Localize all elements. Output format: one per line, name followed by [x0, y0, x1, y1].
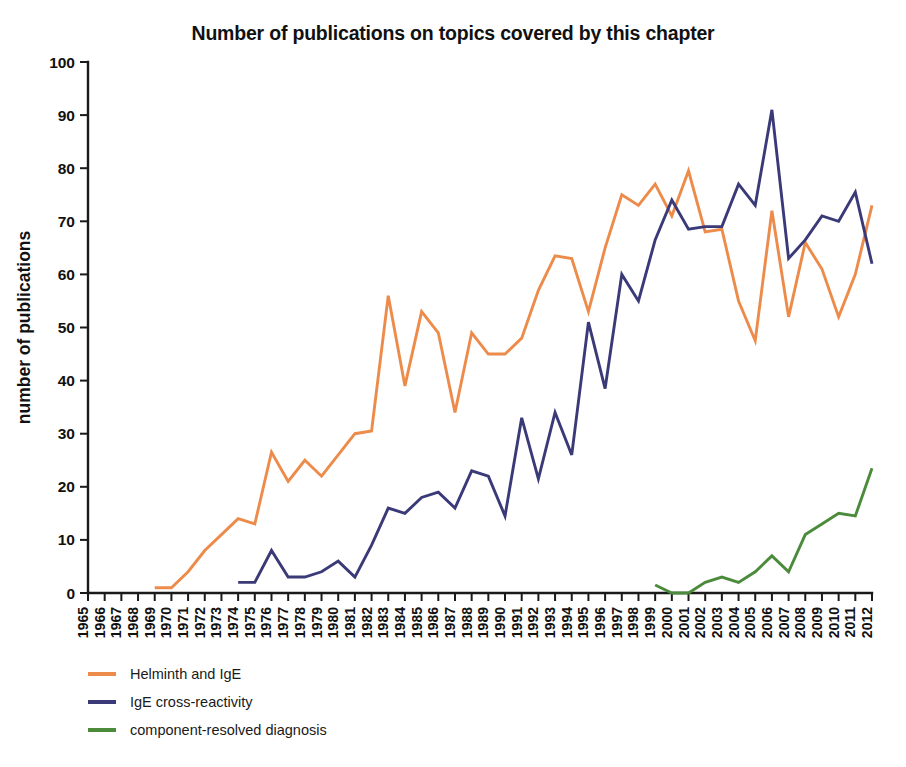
y-axis-tick-labels: 0102030405060708090100 [49, 54, 75, 602]
legend-item-label: component-resolved diagnosis [130, 722, 327, 738]
x-tick-label: 1989 [475, 607, 491, 638]
x-tick-label: 1987 [442, 607, 458, 638]
x-tick-label: 1966 [92, 607, 108, 638]
y-tick-label: 70 [58, 213, 75, 230]
x-tick-label: 1994 [559, 607, 575, 638]
x-tick-label: 1991 [509, 607, 525, 638]
x-tick-label: 1978 [292, 607, 308, 638]
y-tick-label: 50 [58, 319, 75, 336]
x-tick-label: 2004 [726, 607, 742, 638]
x-tick-label: 2010 [826, 607, 842, 638]
legend-item[interactable]: Helminth and IgE [88, 660, 327, 688]
plot-area: 0102030405060708090100 19651966196719681… [0, 0, 906, 660]
x-tick-label: 1998 [625, 607, 641, 638]
series-line-1 [238, 110, 872, 583]
x-tick-label: 1984 [392, 607, 408, 638]
x-tick-label: 2006 [759, 607, 775, 638]
y-tick-label: 30 [58, 425, 75, 442]
x-tick-label: 1974 [225, 607, 241, 638]
x-tick-label: 1975 [242, 607, 258, 638]
x-tick-label: 1996 [592, 607, 608, 638]
y-tick-label: 90 [58, 107, 75, 124]
series-line-0 [155, 171, 872, 588]
x-tick-label: 1999 [642, 607, 658, 638]
legend-color-swatch-icon [88, 728, 116, 732]
x-tick-label: 1970 [158, 607, 174, 638]
x-axis-tick-labels: 1965196619671968196919701971197219731974… [75, 607, 875, 638]
y-axis-title: number of publications [14, 231, 34, 425]
x-tick-label: 1967 [108, 607, 124, 638]
x-tick-label: 1990 [492, 607, 508, 638]
y-tick-label: 40 [58, 372, 75, 389]
x-tick-label: 2001 [676, 607, 692, 638]
x-tick-label: 1973 [208, 607, 224, 638]
x-tick-label: 2002 [692, 607, 708, 638]
x-tick-label: 1983 [375, 607, 391, 638]
x-tick-label: 2009 [809, 607, 825, 638]
x-tick-label: 1985 [409, 607, 425, 638]
x-tick-label: 1977 [275, 607, 291, 638]
y-tick-label: 100 [49, 54, 75, 71]
y-tick-label: 60 [58, 266, 75, 283]
legend-item-label: Helminth and IgE [130, 666, 241, 682]
x-tick-label: 1969 [142, 607, 158, 638]
x-tick-label: 1986 [425, 607, 441, 638]
x-tick-label: 1972 [192, 607, 208, 638]
x-tick-label: 1976 [258, 607, 274, 638]
x-tick-label: 2011 [842, 607, 858, 638]
chart-axes [80, 62, 872, 601]
series-line-2 [655, 468, 872, 593]
publications-line-chart: Number of publications on topics covered… [0, 0, 906, 767]
x-tick-label: 2003 [709, 607, 725, 638]
legend-item[interactable]: component-resolved diagnosis [88, 716, 327, 744]
x-tick-label: 2005 [742, 607, 758, 638]
x-tick-label: 1982 [359, 607, 375, 638]
x-tick-label: 1965 [75, 607, 91, 638]
x-tick-label: 1979 [309, 607, 325, 638]
x-tick-label: 1993 [542, 607, 558, 638]
x-tick-label: 1980 [325, 607, 341, 638]
y-tick-label: 80 [58, 160, 75, 177]
legend-color-swatch-icon [88, 700, 116, 704]
chart-series-group [155, 110, 872, 593]
x-tick-label: 2000 [659, 607, 675, 638]
y-tick-label: 0 [66, 585, 75, 602]
x-tick-label: 1981 [342, 607, 358, 638]
x-tick-label: 1971 [175, 607, 191, 638]
x-tick-label: 1992 [525, 607, 541, 638]
x-tick-label: 1997 [609, 607, 625, 638]
chart-legend: Helminth and IgEIgE cross-reactivitycomp… [88, 660, 327, 744]
y-axis-title-group: number of publications [14, 231, 34, 425]
x-tick-label: 2008 [792, 607, 808, 638]
x-tick-label: 1968 [125, 607, 141, 638]
x-tick-label: 1995 [575, 607, 591, 638]
x-tick-label: 2007 [776, 607, 792, 638]
y-tick-label: 20 [58, 478, 75, 495]
x-tick-label: 2012 [859, 607, 875, 638]
x-tick-label: 1988 [459, 607, 475, 638]
legend-item[interactable]: IgE cross-reactivity [88, 688, 327, 716]
y-tick-label: 10 [58, 531, 75, 548]
legend-item-label: IgE cross-reactivity [130, 694, 252, 710]
legend-color-swatch-icon [88, 672, 116, 676]
